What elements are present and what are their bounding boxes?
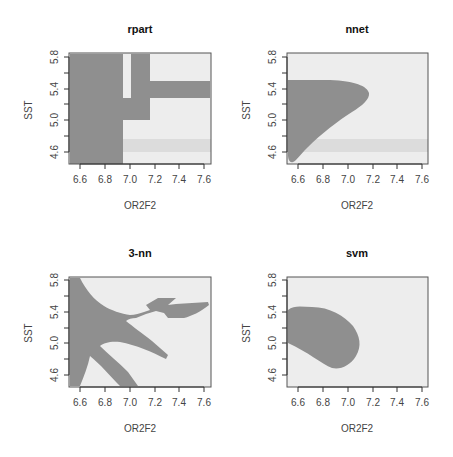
- x-tick-labels: 6.66.87.0 7.27.47.6: [73, 397, 211, 408]
- x-axis: [80, 164, 204, 169]
- y-axis: [282, 57, 287, 152]
- plot-title: rpart: [127, 23, 152, 35]
- x-tick-labels: 6.66.87.0 7.27.47.6: [73, 174, 211, 185]
- region-class1: [131, 81, 210, 98]
- svg-text:7.2: 7.2: [366, 397, 380, 408]
- svg-text:7.2: 7.2: [148, 397, 162, 408]
- svg-text:5.8: 5.8: [49, 273, 60, 287]
- svg-text:4.6: 4.6: [267, 368, 278, 382]
- svg-text:6.6: 6.6: [73, 397, 87, 408]
- plot-area: [69, 277, 211, 387]
- x-axis-label: OR2F2: [341, 200, 374, 211]
- svg-text:7.0: 7.0: [123, 397, 137, 408]
- svg-text:4.6: 4.6: [49, 145, 60, 159]
- svg-text:7.0: 7.0: [341, 397, 355, 408]
- panel-svm: svm 6.66.87.0 7.27.47.6 OR2F2 4.6 5.0 5.…: [218, 228, 453, 457]
- svg-text:5.8: 5.8: [267, 50, 278, 64]
- y-tick-labels: 4.6 5.0 5.4 5.8: [49, 50, 60, 159]
- svg-text:5.4: 5.4: [49, 82, 60, 96]
- svg-text:7.6: 7.6: [197, 397, 211, 408]
- panel-nnet: nnet 6.66.87.0 7.27.47.6 OR2F2 4.6 5.0 5…: [218, 0, 453, 228]
- x-tick-labels: 6.66.87.0 7.27.47.6: [291, 174, 429, 185]
- panel-3nn: 3-nn 6.66.87.0 7.27.47.6 OR2F2 4.6 5.0 5…: [0, 228, 227, 457]
- svg-text:6.6: 6.6: [291, 397, 305, 408]
- plot-area: [69, 53, 211, 164]
- svg-text:7.6: 7.6: [415, 397, 429, 408]
- x-axis-label: OR2F2: [124, 423, 157, 434]
- y-axis-label: SST: [23, 100, 34, 119]
- y-axis-label: SST: [23, 323, 34, 342]
- svg-text:5.8: 5.8: [267, 273, 278, 287]
- plot-title: 3-nn: [128, 247, 152, 259]
- y-axis: [64, 280, 69, 375]
- region-class1: [123, 98, 150, 120]
- panel-rpart: rpart 6.66.87.0 7.27.47.6 OR2F2 4.6 5.0 …: [0, 0, 227, 228]
- x-axis-label: OR2F2: [341, 423, 374, 434]
- svg-text:5.4: 5.4: [267, 305, 278, 319]
- y-axis-label: SST: [241, 323, 252, 342]
- y-tick-labels: 4.6 5.0 5.4 5.8: [49, 273, 60, 382]
- svg-text:6.8: 6.8: [98, 397, 112, 408]
- svg-text:6.8: 6.8: [316, 397, 330, 408]
- svg-text:6.8: 6.8: [316, 174, 330, 185]
- region-class1: [70, 54, 123, 164]
- svg-text:6.6: 6.6: [291, 174, 305, 185]
- x-tick-labels: 6.66.87.0 7.27.47.6: [291, 397, 429, 408]
- svg-text:7.6: 7.6: [415, 174, 429, 185]
- svg-text:6.8: 6.8: [98, 174, 112, 185]
- svg-text:7.4: 7.4: [390, 397, 404, 408]
- svg-text:7.0: 7.0: [123, 174, 137, 185]
- plot-title: svm: [346, 247, 368, 259]
- x-axis: [298, 164, 422, 169]
- svg-text:7.4: 7.4: [172, 174, 186, 185]
- svg-text:5.0: 5.0: [49, 336, 60, 350]
- y-tick-labels: 4.6 5.0 5.4 5.8: [267, 273, 278, 382]
- y-axis: [64, 57, 69, 152]
- svg-text:5.0: 5.0: [267, 336, 278, 350]
- svg-text:7.6: 7.6: [197, 174, 211, 185]
- y-axis-label: SST: [241, 100, 252, 119]
- svg-text:7.2: 7.2: [366, 174, 380, 185]
- svg-text:7.4: 7.4: [172, 397, 186, 408]
- x-axis: [80, 387, 204, 392]
- svg-text:7.4: 7.4: [390, 174, 404, 185]
- svg-text:5.0: 5.0: [267, 113, 278, 127]
- plot-title: nnet: [345, 23, 369, 35]
- svg-text:4.6: 4.6: [49, 368, 60, 382]
- x-axis: [298, 387, 422, 392]
- svg-text:6.6: 6.6: [73, 174, 87, 185]
- svg-text:5.4: 5.4: [267, 82, 278, 96]
- svg-text:5.0: 5.0: [49, 113, 60, 127]
- plot-area: [287, 53, 428, 164]
- svg-text:7.0: 7.0: [341, 174, 355, 185]
- y-tick-labels: 4.6 5.0 5.4 5.8: [267, 50, 278, 159]
- x-axis-label: OR2F2: [124, 200, 157, 211]
- svg-text:5.8: 5.8: [49, 50, 60, 64]
- svg-text:4.6: 4.6: [267, 145, 278, 159]
- svg-text:7.2: 7.2: [148, 174, 162, 185]
- plot-area: [287, 277, 428, 387]
- y-axis: [282, 280, 287, 375]
- svg-text:5.4: 5.4: [49, 305, 60, 319]
